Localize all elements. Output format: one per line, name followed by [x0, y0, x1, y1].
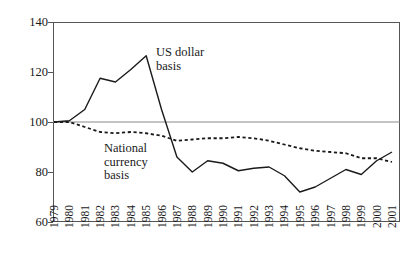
x-tick-label-1986: 1986: [157, 214, 168, 228]
x-tick-label-1984: 1984: [126, 214, 137, 228]
x-tick-label-1992: 1992: [249, 214, 260, 228]
x-tick-label-1983: 1983: [110, 214, 121, 228]
x-tick-label-1982: 1982: [95, 214, 106, 228]
x-tick-label-2001: 2001: [387, 214, 398, 228]
x-tick-label-1995: 1995: [295, 214, 306, 228]
line-chart-figure: 140 120 100 80 60 1979198019811982198319…: [0, 0, 418, 273]
x-tick-label-1991: 1991: [233, 214, 244, 228]
x-tick-label-1987: 1987: [172, 214, 183, 228]
x-tick-label-1988: 1988: [187, 214, 198, 228]
x-tick-label-1979: 1979: [49, 214, 60, 228]
x-tick-label-2000: 2000: [372, 214, 383, 228]
x-tick-label-1998: 1998: [341, 214, 352, 228]
x-tick-label-1980: 1980: [64, 214, 75, 228]
x-tick-label-1997: 1997: [326, 214, 337, 228]
x-tick-label-1989: 1989: [203, 214, 214, 228]
x-tick-label-1993: 1993: [264, 214, 275, 228]
x-tick-label-1990: 1990: [218, 214, 229, 228]
x-tick-label-1981: 1981: [80, 214, 91, 228]
x-tick-label-1999: 1999: [356, 214, 367, 228]
annotation-national-currency-basis: National currency basis: [104, 142, 148, 183]
x-tick-label-1994: 1994: [279, 214, 290, 228]
x-axis: 1979198019811982198319841985198619871988…: [0, 0, 418, 273]
x-tick-label-1996: 1996: [310, 214, 321, 228]
x-tick-label-1985: 1985: [141, 214, 152, 228]
annotation-us-dollar-basis: US dollar basis: [156, 46, 204, 73]
